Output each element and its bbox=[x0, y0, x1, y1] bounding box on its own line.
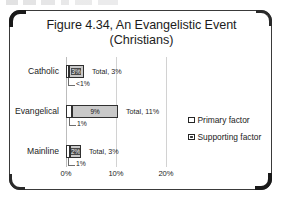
bar-value-supporting-catholic: 3% bbox=[71, 68, 81, 75]
total-label-catholic: Total, 3% bbox=[92, 67, 122, 76]
total-label-evangelical: Total, 11% bbox=[126, 107, 159, 116]
category-label-mainline: Mainline bbox=[27, 146, 59, 156]
legend-swatch-supporting-icon bbox=[188, 134, 195, 141]
frame-corner-bottom-left bbox=[9, 174, 25, 190]
stacked-bar-evangelical[interactable]: 9% bbox=[66, 105, 118, 118]
bar-segment-supporting-catholic[interactable]: 3% bbox=[69, 65, 84, 78]
stacked-bar-catholic[interactable]: 3% bbox=[66, 65, 84, 78]
cropped-header-text-remnant bbox=[6, 0, 126, 5]
plot-area: Catholic 3% Total, 3% <1% Evangelical bbox=[66, 57, 216, 167]
leader-line-catholic bbox=[68, 78, 75, 86]
bar-value-supporting-mainline: 2% bbox=[70, 148, 80, 155]
x-tick-label-20: 20% bbox=[158, 169, 173, 178]
x-axis: 0% 10% 20% bbox=[66, 169, 216, 181]
bar-segment-supporting-evangelical[interactable]: 9% bbox=[72, 105, 118, 118]
bar-value-primary-catholic: <1% bbox=[76, 80, 90, 88]
stacked-bar-mainline[interactable]: 2% bbox=[66, 145, 81, 158]
legend-item-supporting-factor[interactable]: Supporting factor bbox=[188, 132, 276, 142]
chart-title-line-1: Figure 4.34, An Evangelistic Event bbox=[46, 18, 236, 32]
category-label-catholic: Catholic bbox=[28, 66, 59, 76]
chart-frame: Figure 4.34, An Evangelistic Event (Chri… bbox=[9, 10, 272, 190]
legend-swatch-primary-icon bbox=[188, 117, 195, 124]
legend-label-primary-factor: Primary factor bbox=[198, 115, 250, 125]
x-tick-label-0: 0% bbox=[61, 169, 72, 178]
bar-value-primary-mainline: 1% bbox=[76, 160, 86, 168]
legend-label-supporting-factor: Supporting factor bbox=[198, 132, 262, 142]
bar-value-primary-evangelical: 1% bbox=[77, 120, 87, 128]
slide-canvas: Figure 4.34, An Evangelistic Event (Chri… bbox=[0, 0, 281, 201]
frame-corner-bottom-right bbox=[255, 173, 272, 190]
chart-title: Figure 4.34, An Evangelistic Event (Chri… bbox=[20, 18, 263, 48]
legend-item-primary-factor[interactable]: Primary factor bbox=[188, 115, 276, 125]
leader-line-evangelical bbox=[69, 118, 76, 126]
chart-title-line-2: (Christians) bbox=[20, 33, 263, 48]
total-label-mainline: Total, 3% bbox=[89, 147, 119, 156]
bar-value-supporting-evangelical: 9% bbox=[90, 108, 99, 115]
chart-legend: Primary factor Supporting factor bbox=[188, 115, 276, 149]
gridline-20pct bbox=[166, 57, 167, 167]
category-label-evangelical: Evangelical bbox=[15, 106, 59, 116]
leader-line-mainline bbox=[68, 158, 75, 166]
bar-segment-supporting-mainline[interactable]: 2% bbox=[70, 145, 81, 158]
x-tick-label-10: 10% bbox=[108, 169, 123, 178]
